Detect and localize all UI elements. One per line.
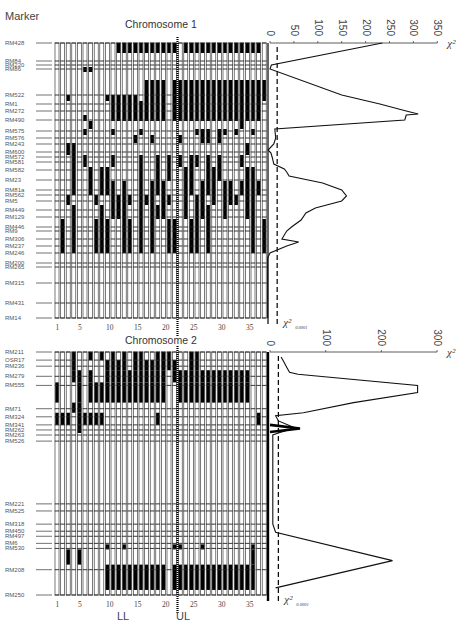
- genotype-segment: [201, 565, 204, 590]
- genotype-segment: [156, 181, 159, 195]
- genotype-segment: [128, 43, 131, 53]
- genotype-segment: [78, 413, 81, 425]
- marker-label: RM575: [5, 128, 25, 134]
- genotype-segment: [162, 101, 165, 115]
- genotype-segment: [179, 80, 182, 95]
- genotype-column: [55, 43, 59, 318]
- genotype-segment: [128, 195, 131, 205]
- marker-label: RM428: [5, 40, 25, 46]
- genotype-segment: [251, 549, 254, 564]
- genotype-segment: [195, 95, 198, 101]
- genotype-segment: [123, 360, 126, 370]
- marker-label: RM582: [5, 167, 25, 173]
- marker-label: RM555: [5, 382, 25, 388]
- column-tick-label: 10: [106, 600, 114, 609]
- threshold-subscript: 0.0001: [295, 325, 307, 330]
- marker-label: RM530: [5, 545, 25, 551]
- genotype-segment: [145, 101, 148, 115]
- genotype-segment: [117, 43, 120, 53]
- genotype-segment: [235, 95, 238, 101]
- threshold-label: χ²: [283, 593, 293, 605]
- genotype-segment: [212, 195, 215, 205]
- genotype-segment: [235, 129, 238, 135]
- genotype-segment: [240, 95, 243, 101]
- genotype-segment: [156, 95, 159, 101]
- genotype-segment: [240, 101, 243, 115]
- genotype-segment: [207, 129, 210, 135]
- genotype-segment: [173, 565, 176, 590]
- column-tick-label: 5: [78, 600, 82, 609]
- genotype-segment: [184, 565, 187, 590]
- genotype-segment: [263, 95, 266, 101]
- genotype-segment: [145, 360, 148, 370]
- genotype-segment: [61, 235, 64, 253]
- marker-label: RM497: [5, 533, 25, 539]
- genotype-segment: [212, 167, 215, 181]
- genotype-segment: [89, 67, 92, 72]
- genotype-segment: [95, 413, 98, 425]
- genotype-segment: [72, 143, 75, 155]
- genotype-segment: [72, 235, 75, 253]
- column-tick-label: 5: [78, 323, 82, 332]
- genotype-segment: [195, 352, 198, 360]
- genotype-segment: [162, 181, 165, 195]
- genotype-segment: [111, 195, 114, 205]
- genotype-segment: [251, 129, 254, 135]
- genotype-segment: [201, 195, 204, 205]
- genotype-segment: [72, 352, 75, 360]
- chi-tick-label: 300: [432, 329, 443, 346]
- genotype-segment: [134, 101, 137, 115]
- genotype-segment: [162, 565, 165, 590]
- genotype-segment: [223, 181, 226, 195]
- genotype-segment: [173, 360, 176, 370]
- genotype-segment: [106, 95, 109, 101]
- genotype-segment: [151, 135, 154, 143]
- marker-label: RM581: [5, 159, 25, 165]
- genotype-figure: Marker Chromosome 1RM428RM84RM220RM86RM5…: [0, 0, 464, 630]
- genotype-segment: [139, 129, 142, 135]
- genotype-segment: [128, 101, 131, 115]
- genotype-segment: [117, 360, 120, 370]
- marker-label: RM243: [5, 141, 25, 147]
- genotype-segment: [106, 167, 109, 181]
- genotype-segment: [117, 195, 120, 205]
- genotype-segment: [184, 167, 187, 181]
- genotype-segment: [195, 129, 198, 135]
- genotype-segment: [229, 43, 232, 53]
- genotype-segment: [173, 43, 176, 53]
- genotype-segment: [128, 95, 131, 101]
- genotype-segment: [201, 135, 204, 143]
- genotype-segment: [251, 43, 254, 53]
- genotype-segment: [123, 101, 126, 115]
- genotype-segment: [162, 195, 165, 205]
- genotype-segment: [229, 80, 232, 95]
- genotype-segment: [207, 80, 210, 95]
- genotype-segment: [251, 181, 254, 195]
- genotype-column: [262, 352, 266, 595]
- genotype-segment: [184, 43, 187, 53]
- genotype-segment: [134, 95, 137, 101]
- genotype-segment: [212, 43, 215, 53]
- marker-label: RM526: [5, 438, 25, 444]
- genotype-segment: [111, 352, 114, 360]
- genotype-segment: [184, 101, 187, 115]
- genotype-segment: [184, 80, 187, 95]
- genotype-segment: [212, 181, 215, 195]
- genotype-segment: [251, 80, 254, 95]
- genotype-segment: [95, 195, 98, 205]
- genotype-segment: [246, 101, 249, 115]
- chi-tick-label: 200: [376, 329, 387, 346]
- genotype-column: [66, 43, 70, 318]
- genotype-segment: [139, 167, 142, 181]
- column-tick-label: 20: [162, 600, 170, 609]
- chi-tick-label: 0: [265, 30, 276, 36]
- genotype-segment: [134, 135, 137, 143]
- column-tick-label: 25: [190, 323, 198, 332]
- genotype-segment: [139, 195, 142, 205]
- genotype-segment: [179, 101, 182, 115]
- genotype-segment: [100, 413, 103, 425]
- genotype-segment: [89, 167, 92, 181]
- genotype-segment: [223, 95, 226, 101]
- genotype-segment: [123, 352, 126, 360]
- genotype-column: [111, 43, 115, 318]
